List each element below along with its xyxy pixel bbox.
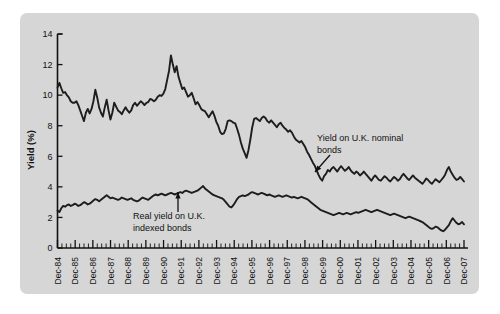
x-tick-label: Dec-96	[265, 257, 275, 285]
x-tick-label: Dec-85	[70, 257, 80, 285]
x-tick-label: Dec-86	[88, 257, 98, 285]
x-tick-label: Dec-88	[123, 257, 133, 285]
series-line-indexed	[58, 186, 465, 231]
x-tick-label: Dec-87	[106, 257, 116, 285]
x-tick-label: Dec-06	[442, 257, 452, 285]
x-tick-label: Dec-02	[371, 257, 381, 285]
x-tick-label: Dec-04	[406, 257, 416, 285]
x-tick-label: Dec-99	[318, 257, 328, 285]
nominal-annotation-line2: bonds	[317, 145, 342, 155]
indexed-annotation-line2: indexed bonds	[133, 223, 192, 233]
x-tick-label: Dec-01	[353, 257, 363, 285]
x-tick-label: Dec-07	[459, 257, 469, 285]
nominal-annotation-line1: Yield on U.K. nominal	[317, 133, 403, 143]
series-line-nominal	[58, 55, 465, 183]
x-tick-label: Dec-95	[247, 257, 257, 285]
x-tick-label: Dec-00	[335, 257, 345, 285]
x-tick-label: Dec-90	[159, 257, 169, 285]
x-tick-label: Dec-03	[389, 257, 399, 285]
x-tick-label: Dec-05	[424, 257, 434, 285]
annotations-group: Yield on U.K. nominalbondsReal yield on …	[133, 133, 403, 233]
x-tick-label: Dec-94	[229, 257, 239, 285]
indexed-annotation-line1: Real yield on U.K.	[133, 211, 205, 221]
x-tick-label: Dec-84	[53, 257, 63, 285]
y-tick-label: 4	[47, 182, 52, 192]
x-tick-label: Dec-97	[282, 257, 292, 285]
y-tick-label: 0	[47, 243, 52, 253]
y-tick-label: 14	[42, 29, 52, 39]
data-series-group	[58, 55, 465, 231]
y-tick-label: 8	[47, 121, 52, 131]
x-tick-label: Dec-92	[194, 257, 204, 285]
x-tick-label: Dec-98	[300, 257, 310, 285]
figure-container: 02468101214 Dec-84Dec-85Dec-86Dec-87Dec-…	[0, 0, 500, 314]
line-chart: 02468101214 Dec-84Dec-85Dec-86Dec-87Dec-…	[0, 0, 500, 314]
y-axis: 02468101214	[42, 29, 62, 253]
x-tick-label: Dec-93	[212, 257, 222, 285]
y-axis-title: Yield (%)	[25, 130, 36, 170]
y-tick-label: 2	[47, 213, 52, 223]
y-tick-label: 6	[47, 152, 52, 162]
y-tick-label: 12	[42, 60, 52, 70]
x-tick-label: Dec-89	[141, 257, 151, 285]
y-tick-label: 10	[42, 90, 52, 100]
x-axis: Dec-84Dec-85Dec-86Dec-87Dec-88Dec-89Dec-…	[53, 240, 470, 284]
x-tick-label: Dec-91	[176, 257, 186, 285]
